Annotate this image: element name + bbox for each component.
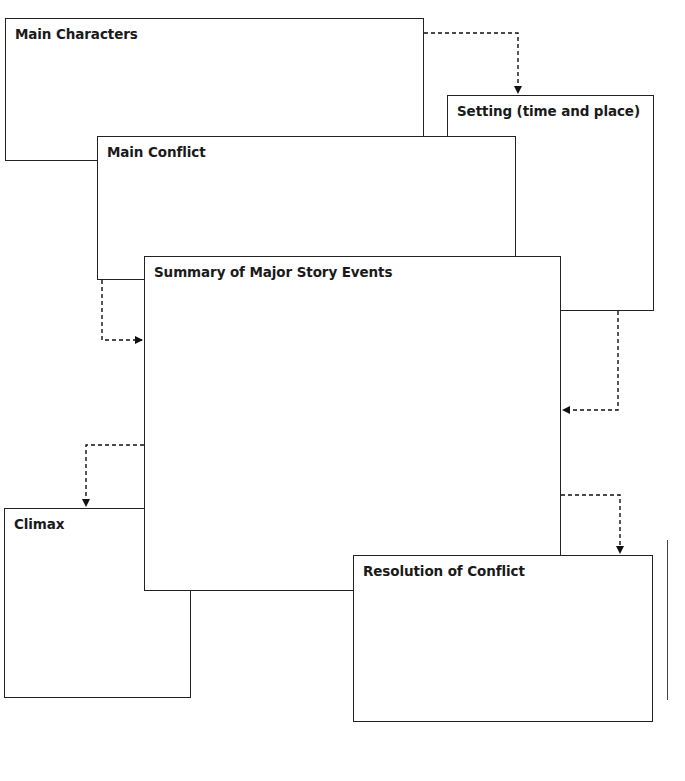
connector-arrows [0,0,685,781]
arrow-summary-to-climax [86,445,144,506]
arrow-characters-to-setting [424,33,518,93]
arrow-summary-to-resolution [561,495,620,553]
arrow-setting-to-summary [563,311,618,410]
arrow-conflict-to-summary [102,280,142,340]
margin-rule [667,540,668,700]
